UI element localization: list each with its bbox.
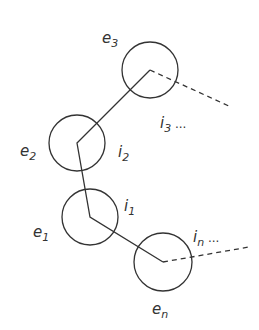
label-e2: e2: [20, 142, 36, 163]
label-en: en: [152, 300, 168, 321]
chain-diagram: e3 e2 e1 en i3 ... i2 i1 in ...: [0, 0, 259, 330]
label-in: in ...: [193, 228, 219, 249]
label-i3: i3 ...: [160, 114, 186, 135]
label-i2: i2: [118, 143, 129, 164]
label-i1: i1: [124, 197, 135, 218]
dashed-continuation-top: [150, 70, 231, 107]
label-e1: e1: [33, 223, 49, 244]
chain-link-line: [77, 70, 163, 262]
label-e3: e3: [102, 29, 118, 50]
dashed-continuation-bottom: [163, 247, 249, 262]
